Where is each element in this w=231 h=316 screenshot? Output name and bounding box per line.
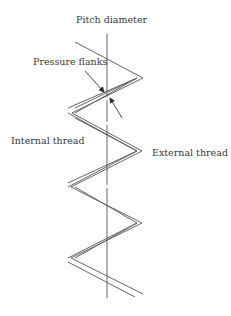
pressure-flanks-label: Pressure flanks: [33, 57, 107, 67]
thread-diagram-svg: [0, 0, 231, 316]
external-thread-label: External thread: [152, 148, 228, 158]
internal-thread-profile: [68, 78, 137, 297]
pitch-diameter-label: Pitch diameter: [76, 15, 147, 25]
internal-thread-label: Internal thread: [11, 136, 85, 146]
thread-diagram: Pitch diameter Pressure flanks Internal …: [0, 0, 231, 316]
